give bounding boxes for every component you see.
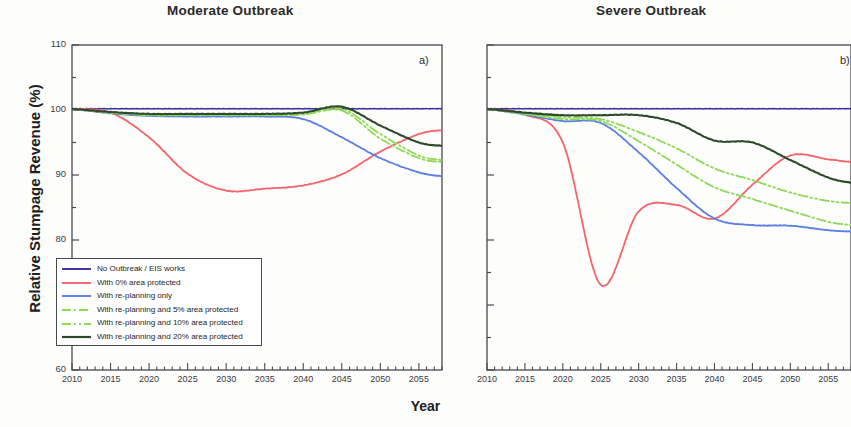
series-line-severe-outbreak-3: [487, 108, 851, 225]
legend-item: With re-planning only: [61, 289, 257, 303]
x-tick-label: 2040: [286, 374, 320, 384]
x-tick-label: 2040: [698, 374, 732, 384]
legend-swatch-icon: [61, 264, 92, 273]
legend-label: With re-planning and 5% area protected: [97, 303, 238, 317]
x-tick-label: 2015: [508, 374, 542, 384]
legend: No Outbreak / EIS worksWith 0% area prot…: [56, 258, 262, 346]
legend-swatch-icon: [61, 278, 92, 287]
x-tick-label: 2045: [735, 374, 769, 384]
legend-swatch-icon: [61, 305, 92, 314]
legend-item: With re-planning and 5% area protected: [61, 303, 257, 317]
figure-container: Moderate Outbreak Severe Outbreak Relati…: [0, 0, 851, 427]
legend-label: No Outbreak / EIS works: [97, 262, 185, 276]
x-tick-label: 2030: [622, 374, 656, 384]
series-layer-moderate: [72, 106, 442, 191]
legend-item: With re-planning and 10% area protected: [61, 316, 257, 330]
y-tick-label: 60: [36, 363, 66, 374]
series-line-severe-outbreak-1: [487, 108, 851, 285]
series-line-severe-outbreak-4: [487, 108, 851, 203]
y-tick-label: 90: [36, 168, 66, 179]
x-tick-label: 2020: [132, 374, 166, 384]
x-tick-label: 2050: [773, 374, 807, 384]
x-tick-label: 2035: [248, 374, 282, 384]
legend-swatch-icon: [61, 332, 92, 341]
legend-label: With re-planning only: [97, 289, 172, 303]
legend-item: With 0% area protected: [61, 276, 257, 290]
x-tick-label: 2010: [470, 374, 504, 384]
x-tick-label: 2045: [325, 374, 359, 384]
x-tick-label: 2035: [660, 374, 694, 384]
y-tick-label: 100: [36, 103, 66, 114]
series-line-moderate-outbreak-5: [72, 106, 442, 146]
legend-label: With re-planning and 20% area protected: [97, 330, 243, 344]
legend-item: With re-planning and 20% area protected: [61, 330, 257, 344]
legend-item: No Outbreak / EIS works: [61, 262, 257, 276]
x-tick-label: 2050: [363, 374, 397, 384]
series-line-moderate-outbreak-1: [72, 108, 442, 191]
legend-swatch-icon: [61, 291, 92, 300]
x-tick-label: 2055: [402, 374, 436, 384]
legend-label: With re-planning and 10% area protected: [97, 316, 243, 330]
x-tick-label: 2030: [209, 374, 243, 384]
y-tick-label: 110: [36, 38, 66, 49]
x-tick-label: 2025: [584, 374, 618, 384]
y-tick-label: 80: [36, 233, 66, 244]
plot-canvas: [0, 0, 851, 427]
x-tick-label: 2015: [94, 374, 128, 384]
x-tick-label: 2020: [546, 374, 580, 384]
x-tick-label: 2055: [811, 374, 845, 384]
x-tick-label: 2010: [55, 374, 89, 384]
series-layer-severe: [487, 108, 851, 285]
x-tick-label: 2025: [171, 374, 205, 384]
legend-label: With 0% area protected: [97, 276, 180, 290]
legend-swatch-icon: [61, 319, 92, 328]
